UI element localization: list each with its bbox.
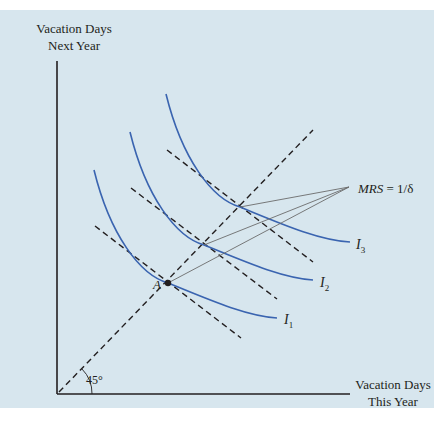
point-a-marker	[165, 280, 171, 286]
point-a-label: A	[152, 277, 161, 292]
angle-label: 45°	[86, 373, 103, 387]
x-axis-label-line2: This Year	[368, 394, 419, 409]
y-axis-label-line1: Vacation Days	[36, 21, 111, 36]
indifference-curve-2	[130, 132, 313, 280]
indifference-curve-diagram: Vacation Days Next Year Vacation Days Th…	[0, 0, 436, 421]
mrs-label-italic: MRS	[357, 181, 384, 196]
curve-label-3-subscript: 3	[361, 245, 366, 255]
x-axis-label-line1: Vacation Days	[355, 377, 430, 392]
mrs-label: MRS = 1/δ	[357, 181, 413, 196]
curve-label-1-subscript: 1	[289, 320, 294, 330]
curve-label-1: I1	[283, 312, 293, 330]
45-degree-line	[59, 130, 313, 392]
curve-label-3: I3	[355, 237, 366, 255]
mrs-leader-line-1	[168, 187, 349, 283]
mrs-leader-line-3	[240, 187, 349, 207]
curve-label-2: I2	[319, 275, 329, 293]
y-axis-label-line2: Next Year	[48, 38, 101, 53]
curve-label-2-subscript: 2	[325, 283, 330, 293]
mrs-label-rest: = 1/δ	[383, 181, 413, 196]
